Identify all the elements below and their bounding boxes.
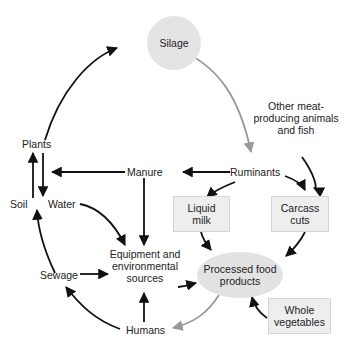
arrow-ruminants-milk	[207, 182, 235, 197]
silage-label: Silage	[159, 37, 188, 49]
arrow-carcass-processed	[286, 232, 305, 256]
arrow-milk-processed	[201, 232, 211, 250]
arrow-humans-sewage	[66, 287, 120, 329]
node-sewage: Sewage	[40, 269, 78, 281]
arrow-processed-humans	[173, 295, 219, 328]
node-carcass-cuts: Carcass cuts	[271, 196, 329, 232]
node-humans: Humans	[126, 324, 165, 336]
arrow-other-carcass	[302, 157, 316, 188]
node-plants: Plants	[22, 138, 51, 150]
node-other-animals: Other meat- producing animals and fish	[248, 100, 344, 136]
node-soil: Soil	[10, 198, 28, 210]
arrow-ruminants-carcass	[285, 176, 305, 190]
arrow-water-equipment	[80, 204, 125, 245]
node-whole-vegetables: Whole vegetables	[268, 298, 331, 334]
arrow-plants-silage	[45, 48, 117, 140]
arrow-sewage-soil	[37, 210, 55, 273]
node-ruminants: Ruminants	[230, 166, 280, 178]
node-processed-food: Processed food products	[197, 252, 283, 298]
arrow-vegetables-processed	[252, 297, 267, 318]
node-liquid-milk: Liquid milk	[173, 196, 230, 232]
node-water: Water	[48, 198, 76, 210]
node-equipment: Equipment and environmental sources	[108, 248, 182, 284]
node-silage: Silage	[147, 16, 201, 70]
node-manure: Manure	[127, 166, 163, 178]
